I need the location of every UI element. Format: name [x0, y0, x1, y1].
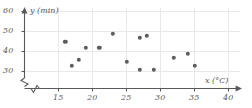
plot-canvas: [0, 0, 252, 108]
x-tick-label: 25: [121, 93, 132, 102]
y-axis-title: y (min): [30, 6, 59, 15]
y-axis: [21, 7, 28, 87]
x-tick-label: 15: [53, 93, 64, 102]
y-tick-label: 30: [3, 66, 14, 75]
y-tick-label: 40: [3, 46, 14, 55]
x-axis-title: x (°C): [205, 76, 228, 85]
x-tick-label: 20: [87, 93, 98, 102]
x-tick-label: 30: [155, 93, 166, 102]
horizontal-gridlines: [24, 12, 240, 72]
scatter-plot-figure: 60 50 40 30 15 20 25 30 35 40 y (min) x …: [0, 0, 252, 108]
y-tick-label: 50: [3, 26, 14, 35]
x-tick-label: 35: [189, 93, 200, 102]
y-tick-label: 60: [3, 6, 14, 15]
x-axis: [25, 86, 243, 93]
x-tick-label: 40: [223, 93, 234, 102]
